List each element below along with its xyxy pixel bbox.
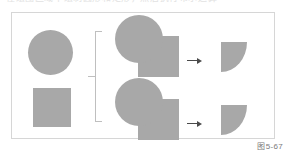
figure-frame xyxy=(11,12,275,139)
operand-group-top xyxy=(110,15,192,77)
arrow-head-top xyxy=(197,58,202,64)
bracket-center-tick xyxy=(88,76,95,77)
operand-group-bottom xyxy=(110,78,192,140)
arrow-right-icon-bottom xyxy=(187,120,203,127)
grouping-bracket xyxy=(89,31,101,122)
bracket-vertical-line xyxy=(95,31,96,122)
operand-circle-bottom xyxy=(115,78,163,126)
source-circle-shape xyxy=(28,30,73,75)
result-shape-top xyxy=(221,42,247,72)
arrow-head-bottom xyxy=(197,121,202,127)
operand-circle-top xyxy=(115,15,163,63)
result-shape-bottom xyxy=(221,105,247,135)
arrow-right-icon-top xyxy=(187,57,203,64)
figure-caption: 图5-67 xyxy=(0,142,283,152)
source-square-shape xyxy=(33,88,71,127)
bracket-arm-top xyxy=(95,31,102,32)
bracket-arm-bottom xyxy=(95,121,102,122)
clipped-header-text: 在绘图区域中绘制圆形和矩形，然后执行布尔运算 xyxy=(6,0,217,3)
clipped-header-text-strip: 在绘图区域中绘制圆形和矩形，然后执行布尔运算 xyxy=(0,0,289,7)
